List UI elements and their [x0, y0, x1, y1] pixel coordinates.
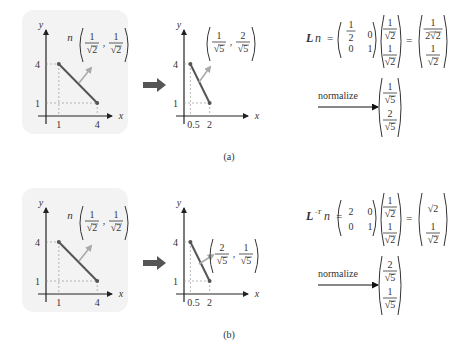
denominator: √5	[214, 43, 225, 54]
line-segment	[190, 64, 209, 103]
right-paren	[373, 200, 376, 236]
result-entry: 12√2	[424, 17, 443, 41]
right-paren	[255, 239, 258, 273]
input-vector: 1√21√2	[381, 193, 401, 246]
denominator: √5	[238, 43, 249, 54]
denominator: √2	[385, 234, 396, 245]
denominator: √2	[385, 56, 396, 67]
result-entry: 1√2	[426, 43, 440, 67]
equation: L-Tn=20011√21√2=√21√2normalize2√51√5	[305, 193, 447, 315]
matrix: 12001	[338, 19, 376, 58]
denominator: √2	[428, 234, 439, 245]
component-1: 1√5	[212, 30, 226, 54]
numerator: 1	[431, 43, 436, 54]
normalized-vector: 2√51√5	[379, 256, 401, 315]
numerator: 1	[217, 30, 222, 41]
denominator: √2	[111, 222, 122, 233]
normalize-label: normalize	[318, 90, 359, 101]
denominator: √2	[385, 30, 396, 41]
caption: (a)	[223, 151, 234, 163]
numerator: 2	[388, 108, 393, 119]
normal-vector-label: 1√5,2√5	[207, 27, 255, 61]
component-2: 1√5	[239, 242, 253, 266]
normal-vector-arrow	[199, 67, 210, 82]
transform-arrow	[143, 256, 166, 270]
component-1: 2√5	[215, 242, 229, 266]
denominator: √2	[428, 56, 439, 67]
endpoint	[95, 279, 99, 283]
numerator: 1	[114, 31, 119, 42]
before-plot: xy4114n1√2,1√2	[22, 10, 128, 134]
left-paren	[419, 15, 422, 68]
numerator: 1	[388, 195, 393, 206]
numerator: 2	[388, 259, 393, 270]
denominator: √5	[385, 94, 396, 105]
comma: ,	[103, 215, 106, 226]
matrix-entry: 0	[368, 206, 373, 217]
numerator: 1	[388, 81, 393, 92]
y-tick-label: 1	[35, 276, 40, 287]
right-paren	[398, 78, 401, 137]
numerator: 1	[388, 17, 393, 28]
comma: ,	[103, 37, 106, 48]
right-paren	[444, 193, 447, 246]
vector-entry: 1√2	[383, 43, 397, 67]
equals-sign: =	[406, 34, 412, 46]
input-vector: 1√21√2	[381, 15, 401, 68]
normal-vector-label: 2√5,1√5	[210, 239, 258, 273]
equation-lhs: Ln=	[305, 31, 333, 45]
line-segment	[190, 242, 209, 281]
endpoint	[208, 279, 212, 283]
denominator: 2	[349, 32, 354, 43]
y-tick-label: 1	[35, 98, 40, 109]
normalized-vector: 1√52√5	[379, 78, 401, 137]
numerator: 1	[244, 242, 249, 253]
numerator: 1	[388, 43, 393, 54]
panel-b: xy4114n1√2,1√2xy410.522√5,1√5(b)L-Tn=200…	[22, 188, 447, 341]
x-tick-label: 1	[56, 297, 61, 308]
vector-symbol: n	[315, 31, 321, 45]
matrix-symbol: L	[305, 209, 313, 223]
matrix: 2001	[338, 200, 376, 236]
x-axis-label: x	[118, 288, 124, 299]
denominator: √2	[87, 44, 98, 55]
x-tick-label: 2	[207, 119, 212, 130]
right-paren	[398, 15, 401, 68]
result-vector: √21√2	[419, 193, 447, 246]
right-paren	[444, 15, 447, 68]
denominator: √2	[111, 44, 122, 55]
matrix-entry: 0	[368, 29, 373, 40]
denominator: √2	[87, 222, 98, 233]
equation-lhs: L-Tn=	[305, 208, 342, 223]
transform-arrow-shaft	[143, 260, 157, 266]
left-paren	[379, 256, 382, 315]
right-paren	[252, 27, 255, 61]
denominator: √5	[217, 255, 228, 266]
numerator: 1	[431, 221, 436, 232]
y-tick-label: 4	[35, 59, 40, 70]
endpoint	[188, 240, 192, 244]
y-axis-label: y	[38, 197, 44, 208]
after-plot: xy410.522√5,1√5	[173, 197, 260, 308]
x-tick-label: 0.5	[187, 119, 200, 130]
left-paren	[381, 15, 384, 68]
matrix-entry: 1	[368, 43, 373, 54]
component-2: 2√5	[236, 30, 250, 54]
equals-sign: =	[406, 212, 412, 224]
transform-arrow	[143, 78, 166, 92]
left-paren	[381, 193, 384, 246]
x-tick-label: 0.5	[187, 297, 200, 308]
endpoint	[208, 101, 212, 105]
comma: ,	[233, 248, 236, 259]
normalize-step: normalize	[318, 90, 378, 107]
normal-symbol: n	[67, 209, 73, 221]
numerator: 2	[241, 30, 246, 41]
x-tick-label: 4	[95, 119, 100, 130]
right-paren	[398, 256, 401, 315]
x-axis-label: x	[254, 288, 260, 299]
panel-a: xy4114n1√2,1√2xy410.521√5,2√5(a)Ln=12001…	[22, 10, 447, 163]
x-tick-label: 2	[207, 297, 212, 308]
y-axis-label: y	[176, 19, 182, 30]
y-tick-label: 4	[173, 59, 178, 70]
numerator: 1	[90, 209, 95, 220]
